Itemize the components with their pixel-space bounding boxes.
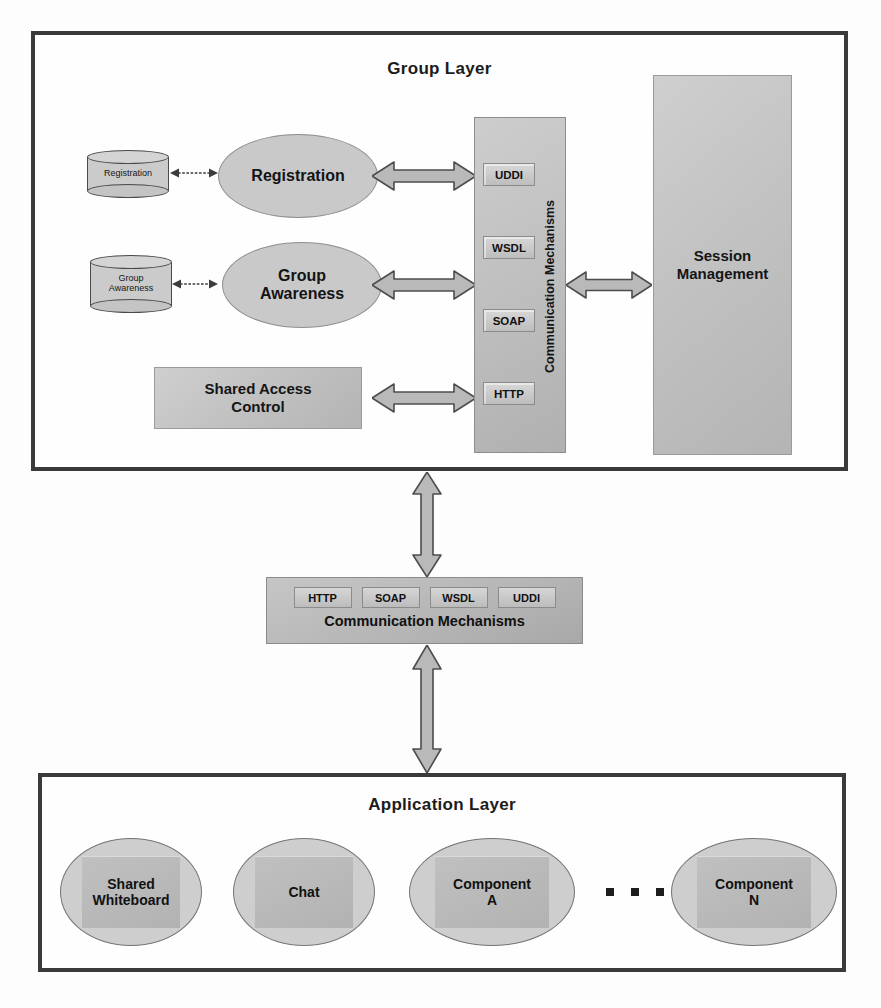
group-awareness-store-link-arrow [172, 276, 218, 296]
shared-access-control-node: Shared AccessControl [154, 367, 362, 429]
group-awareness-comm-arrow [372, 267, 476, 303]
ellipsis-dot [656, 888, 664, 896]
registration-datastore: Registration [87, 150, 169, 198]
group-awareness-service-label: GroupAwareness [260, 267, 344, 304]
communication-mechanisms-column-label: Communication Mechanisms [537, 118, 563, 454]
app-component-chat: Chat [233, 838, 375, 946]
protocol-chip-http: HTTP [483, 382, 535, 405]
session-management-label: SessionManagement [677, 247, 769, 283]
communication-bar-chip-row: HTTP SOAP WSDL UDDI [267, 587, 582, 608]
communication-mechanisms-bar-label: Communication Mechanisms [267, 613, 582, 629]
component-label: SharedWhiteboard [60, 838, 202, 946]
protocol-chip-uddi: UDDI [483, 163, 535, 186]
group-to-comm-arrow [412, 472, 442, 577]
ellipsis-dot [631, 888, 639, 896]
app-component-a: ComponentA [409, 838, 575, 946]
shared-access-control-comm-arrow [372, 380, 476, 416]
diagram-canvas: Group Layer Registration Registration Gr… [0, 0, 881, 1008]
component-label: ComponentN [671, 838, 837, 946]
comm-column-label-text: Communication Mechanisms [543, 200, 557, 373]
group-awareness-datastore: GroupAwareness [90, 255, 172, 313]
communication-mechanisms-bar: HTTP SOAP WSDL UDDI Communication Mechan… [266, 577, 583, 644]
registration-service-node: Registration [218, 134, 378, 218]
components-ellipsis [606, 888, 664, 896]
protocol-chip-uddi: UDDI [498, 587, 556, 608]
ellipsis-dot [606, 888, 614, 896]
protocol-chip-wsdl: WSDL [483, 236, 535, 259]
registration-store-link-arrow [170, 165, 218, 185]
application-layer-title: Application Layer [42, 795, 842, 815]
comm-to-application-arrow [412, 645, 442, 773]
registration-service-label: Registration [251, 167, 344, 185]
group-awareness-datastore-label: GroupAwareness [90, 255, 172, 313]
component-label: ComponentA [409, 838, 575, 946]
component-label: Chat [233, 838, 375, 946]
protocol-chip-wsdl: WSDL [430, 587, 488, 608]
protocol-chip-http: HTTP [294, 587, 352, 608]
protocol-chip-soap: SOAP [483, 309, 535, 332]
group-awareness-service-node: GroupAwareness [222, 242, 382, 328]
communication-mechanisms-column: UDDI WSDL SOAP HTTP Communication Mechan… [474, 117, 566, 453]
session-management-node: SessionManagement [653, 75, 792, 455]
protocol-chip-soap: SOAP [362, 587, 420, 608]
shared-access-control-label: Shared AccessControl [204, 380, 311, 416]
app-component-n: ComponentN [671, 838, 837, 946]
registration-datastore-label: Registration [87, 150, 169, 198]
session-management-comm-arrow [566, 268, 652, 302]
app-component-shared-whiteboard: SharedWhiteboard [60, 838, 202, 946]
registration-comm-arrow [372, 158, 476, 194]
